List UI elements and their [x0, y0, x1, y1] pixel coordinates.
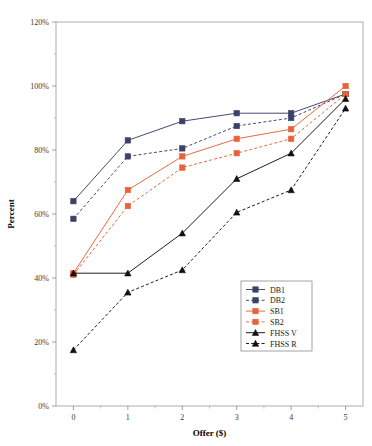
series-line [73, 94, 345, 219]
y-tick-label: 40% [34, 274, 49, 283]
data-point [125, 289, 131, 295]
x-axis-title: Offer ($) [193, 428, 227, 438]
y-tick-label: 100% [30, 82, 49, 91]
data-point [234, 136, 239, 141]
data-point [234, 209, 240, 215]
series-sb2 [71, 91, 349, 277]
data-point [288, 115, 293, 120]
data-point [125, 154, 130, 159]
x-tick-label: 1 [126, 413, 130, 422]
legend-label: DB2 [270, 296, 285, 305]
data-point [71, 199, 76, 204]
series-line [73, 94, 345, 275]
plot-frame [56, 22, 363, 406]
x-tick-label: 3 [235, 413, 239, 422]
data-point [125, 187, 130, 192]
data-point [234, 123, 239, 128]
data-point [180, 146, 185, 151]
data-point [125, 138, 130, 143]
data-point [180, 154, 185, 159]
x-tick-label: 5 [344, 413, 348, 422]
series-line [73, 99, 345, 273]
data-point [288, 127, 293, 132]
legend-label: SB1 [270, 307, 284, 316]
legend-label: SB2 [270, 318, 284, 327]
series-line [73, 86, 345, 273]
data-point [180, 119, 185, 124]
series-fhss-v [70, 96, 349, 276]
line-chart: 0%20%40%60%80%100%120%012345Offer ($)Per… [0, 0, 372, 446]
data-point [343, 83, 348, 88]
legend-label: FHSS R [270, 340, 297, 349]
y-tick-label: 60% [34, 210, 49, 219]
data-point [234, 176, 240, 182]
x-tick-label: 4 [289, 413, 293, 422]
legend-marker [253, 287, 258, 292]
data-point [180, 165, 185, 170]
data-point [288, 136, 293, 141]
x-tick-label: 2 [180, 413, 184, 422]
data-point [71, 216, 76, 221]
series-db2 [71, 91, 349, 221]
y-tick-label: 120% [30, 18, 49, 27]
legend-marker [253, 319, 258, 324]
data-point [234, 111, 239, 116]
chart-legend: DB1DB2SB1SB2FHSS VFHSS R [241, 281, 312, 351]
legend-marker [253, 308, 258, 313]
y-tick-label: 0% [38, 402, 49, 411]
data-point [288, 187, 294, 193]
data-point [70, 347, 76, 353]
y-axis-title: Percent [6, 199, 16, 228]
legend-label: FHSS V [270, 329, 297, 338]
legend-marker [253, 298, 258, 303]
data-point [342, 105, 348, 111]
y-tick-label: 20% [34, 338, 49, 347]
y-tick-label: 80% [34, 146, 49, 155]
data-point [125, 203, 130, 208]
series-sb1 [71, 83, 349, 276]
chart-figure: 0%20%40%60%80%100%120%012345Offer ($)Per… [0, 0, 372, 446]
x-tick-label: 0 [71, 413, 75, 422]
legend-label: DB1 [270, 286, 285, 295]
data-point [234, 151, 239, 156]
